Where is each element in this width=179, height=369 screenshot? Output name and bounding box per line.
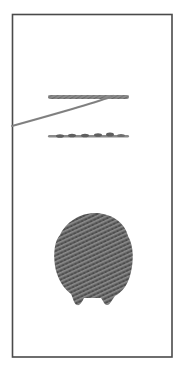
embroidery-sample-scene xyxy=(0,0,179,369)
filled-stitch-shape xyxy=(54,213,133,305)
back-stitch-line xyxy=(48,133,129,138)
embroidery-illustration xyxy=(0,0,179,369)
stem-stitch-line xyxy=(48,95,129,99)
picture-frame xyxy=(13,15,173,358)
